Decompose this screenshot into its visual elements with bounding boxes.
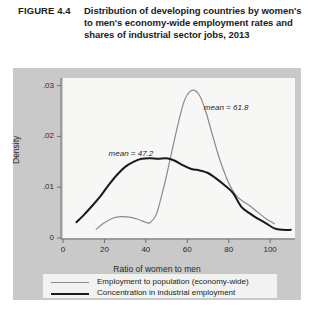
legend-swatch-1: [51, 282, 89, 283]
chart-legend: Employment to population (economy-wide)C…: [43, 274, 277, 298]
figure-number: FIGURE 4.4: [18, 5, 71, 16]
caption-row: FIGURE 4.4 Distribution of developing co…: [18, 5, 304, 23]
figure-caption: FIGURE 4.4 Distribution of developing co…: [0, 0, 311, 62]
mean-annotation-1: mean = 61.8: [204, 103, 249, 112]
figure-body: Density 0.01.02.03020406080100 mean = 61…: [13, 68, 301, 300]
mean-annotation-2: mean = 47.2: [109, 149, 154, 158]
figure-title: Distribution of developing countries by …: [84, 5, 306, 41]
legend-label-2: Concentration in industrial employment: [97, 288, 235, 297]
legend-label-1: Employment to population (economy-wide): [97, 277, 249, 286]
legend-swatch-2: [51, 293, 89, 295]
x-axis-label: Ratio of women to men: [13, 264, 301, 274]
